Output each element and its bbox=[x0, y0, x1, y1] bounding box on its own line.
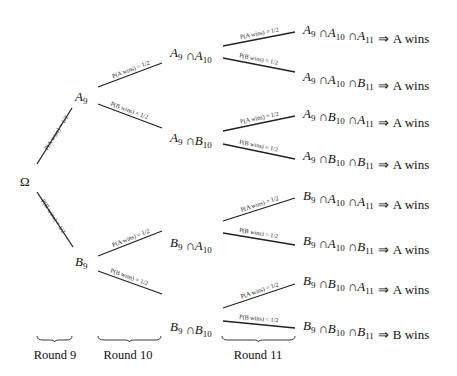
edge-l2-3-a11-label: P(A wins) = 1/2 bbox=[240, 280, 280, 300]
leaf-2: A9∩A10∩B11⇒A wins bbox=[302, 69, 429, 93]
edge-labels: P(A wins) = 1/2P(B wins) = 1/2P(A wins) … bbox=[39, 25, 279, 324]
round-braces: Round 9Round 10Round 11 bbox=[34, 336, 295, 362]
leaf-8: B9∩B10∩B11⇒B wins bbox=[303, 318, 429, 342]
edge-l2-2-b11-label: P(B wins) = 1/2 bbox=[239, 226, 279, 240]
root-omega: Ω bbox=[20, 174, 30, 189]
node-a9a10: A9∩A10 bbox=[169, 45, 212, 65]
brace-round-11 bbox=[222, 336, 295, 342]
node-b9a10: B9∩A10 bbox=[170, 235, 212, 255]
brace-round-10 bbox=[98, 336, 161, 342]
tree-edges bbox=[37, 32, 295, 328]
node-a9: A9 bbox=[74, 89, 88, 106]
leaf-5: B9∩A10∩A11⇒A wins bbox=[303, 188, 429, 212]
edge-l2-2-a11-label: P(A wins) = 1/2 bbox=[240, 194, 280, 214]
node-a9b10: A9∩B10 bbox=[169, 130, 212, 150]
probability-tree: P(A wins) = 1/2P(B wins) = 1/2P(A wins) … bbox=[0, 0, 457, 376]
edge-root-b9-label: P(B wins) = 1/2 bbox=[39, 198, 67, 235]
edge-l2-3-b11 bbox=[223, 321, 295, 328]
tree-nodes: ΩA9B9A9∩A10A9∩B10B9∩A10B9∩B10A9∩A10∩A11⇒… bbox=[20, 22, 429, 342]
leaf-7: B9∩B10∩A11⇒A wins bbox=[303, 273, 429, 297]
node-b9: B9 bbox=[75, 254, 88, 271]
leaf-4: A9∩B10∩B11⇒A wins bbox=[302, 148, 429, 172]
round-label-11: Round 11 bbox=[234, 348, 283, 362]
leaf-1: A9∩A10∩A11⇒A wins bbox=[302, 22, 429, 46]
leaf-3: A9∩B10∩A11⇒A wins bbox=[302, 106, 429, 130]
round-label-10: Round 10 bbox=[104, 348, 153, 362]
round-label-9: Round 9 bbox=[34, 348, 77, 362]
node-b9b10: B9∩B10 bbox=[170, 319, 212, 339]
brace-round-9 bbox=[37, 336, 72, 342]
edge-root-a9-label: P(A wins) = 1/2 bbox=[42, 114, 70, 152]
leaf-6: B9∩A10∩B11⇒A wins bbox=[303, 233, 429, 257]
